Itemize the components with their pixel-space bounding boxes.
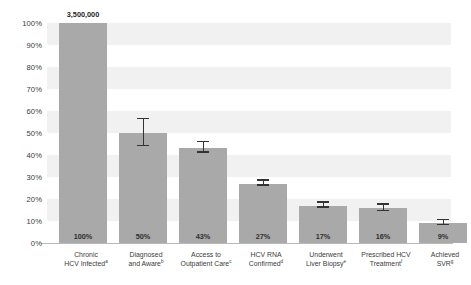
grid-band-80-90 <box>47 45 451 67</box>
bar-access-to-outpatient-care <box>179 148 227 243</box>
plot-area: 3,500,000 100% 50% 43% <box>47 23 451 243</box>
x-axis-label-achieved-svr: Achieved SVRg <box>409 250 471 268</box>
x-label-line2: SVRg <box>409 259 471 268</box>
footnote-marker-b: b <box>161 259 164 264</box>
bar-value-access-to-outpatient-care: 43% <box>179 232 227 241</box>
error-bar-cap-top <box>377 203 389 205</box>
error-bar-cap-bottom <box>377 210 389 212</box>
error-bar-cap-bottom <box>257 184 269 186</box>
bar-value-prescribed-hcv-treatment: 16% <box>359 232 407 241</box>
bar-annotation-3500000: 3,500,000 <box>59 10 107 19</box>
bar-group-diagnosed-and-aware[interactable]: 50% <box>119 133 167 243</box>
grid-band-60-70 <box>47 89 451 111</box>
y-axis-tick-50: 50% <box>0 129 42 138</box>
y-axis-tick-70: 70% <box>0 85 42 94</box>
error-bar-cap-bottom <box>317 206 329 208</box>
bar-chronic-hcv-infected <box>59 23 107 243</box>
y-axis-tick-80: 80% <box>0 63 42 72</box>
y-axis-tick-0: 0% <box>0 239 42 248</box>
error-bar-cap-top <box>317 201 329 203</box>
grid-band-50-60 <box>47 111 451 133</box>
y-axis-tick-10: 10% <box>0 217 42 226</box>
y-axis-tick-20: 20% <box>0 195 42 204</box>
y-axis-tick-30: 30% <box>0 173 42 182</box>
grid-band-70-80 <box>47 67 451 89</box>
y-axis-tick-60: 60% <box>0 107 42 116</box>
error-bar-cap-top <box>197 141 209 143</box>
grid-band-40-50 <box>47 133 451 155</box>
bar-group-underwent-liver-biopsy[interactable]: 17% <box>299 206 347 243</box>
bar-value-chronic-hcv-infected: 100% <box>59 232 107 241</box>
grid-band-30-40 <box>47 155 451 177</box>
x-label-line1: Achieved <box>409 250 471 259</box>
error-bar-cap-bottom <box>437 224 449 226</box>
x-axis-line <box>41 243 453 244</box>
y-axis-tick-40: 40% <box>0 151 42 160</box>
bar-group-achieved-svr[interactable]: 9% <box>419 223 467 243</box>
bar-diagnosed-and-aware <box>119 133 167 243</box>
bar-group-prescribed-hcv-treatment[interactable]: 16% <box>359 208 407 243</box>
bar-group-hcv-rna-confirmed[interactable]: 27% <box>239 184 287 243</box>
footnote-marker-f: f <box>401 259 402 264</box>
bar-value-achieved-svr: 9% <box>419 232 467 241</box>
error-bar-stem <box>143 118 144 147</box>
error-bar-cap-top <box>437 219 449 221</box>
y-axis-tick-100: 100% <box>0 19 42 28</box>
error-bar-cap-bottom <box>137 145 149 147</box>
bar-group-access-to-outpatient-care[interactable]: 43% <box>179 148 227 243</box>
bar-value-diagnosed-and-aware: 50% <box>119 232 167 241</box>
bar-group-chronic-hcv-infected[interactable]: 3,500,000 100% <box>59 23 107 243</box>
grid-band-90-100 <box>47 23 451 45</box>
error-bar-cap-top <box>257 179 269 181</box>
footnote-marker-g: g <box>451 259 454 264</box>
bar-value-hcv-rna-confirmed: 27% <box>239 232 287 241</box>
bar-value-underwent-liver-biopsy: 17% <box>299 232 347 241</box>
error-bar-cap-top <box>137 118 149 120</box>
footnote-marker-d: d <box>281 259 284 264</box>
error-bar-cap-bottom <box>197 151 209 153</box>
y-axis-tick-90: 90% <box>0 41 42 50</box>
